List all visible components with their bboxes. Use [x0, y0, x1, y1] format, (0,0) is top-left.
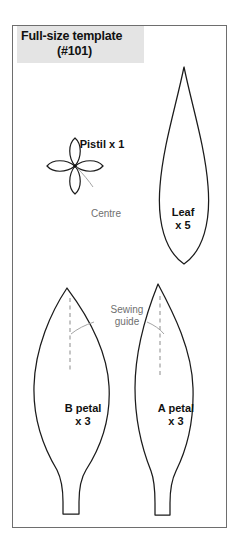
- sewing-guide-label-line-2: guide: [96, 316, 158, 328]
- title-line-2: (#101): [21, 44, 140, 59]
- a-petal-label-qty: x 3: [134, 415, 218, 428]
- a-petal-label: A petal x 3: [134, 402, 218, 428]
- template-frame: Full-size template (#101) Pistil x 1 Cen…: [12, 25, 227, 528]
- leaf-label: Leaf x 5: [153, 206, 213, 232]
- centre-annotation-label: Centre: [91, 208, 151, 220]
- pattern-sheet: Full-size template (#101) Pistil x 1 Cen…: [0, 0, 241, 554]
- b-petal-label: B petal x 3: [38, 402, 128, 428]
- title-line-1: Full-size template: [21, 29, 140, 44]
- sewing-guide-label-line-1: Sewing: [96, 304, 158, 316]
- a-petal-label-name: A petal: [134, 402, 218, 415]
- sewing-guide-label: Sewing guide: [96, 304, 158, 328]
- pattern-artwork: [13, 26, 228, 529]
- leaf-shape: [159, 67, 208, 264]
- b-petal-label-qty: x 3: [38, 415, 128, 428]
- b-petal-label-name: B petal: [38, 402, 128, 415]
- pistil-label: Pistil x 1: [57, 138, 147, 151]
- leaf-label-qty: x 5: [153, 219, 213, 232]
- leaf-label-name: Leaf: [153, 206, 213, 219]
- title-block: Full-size template (#101): [17, 26, 144, 63]
